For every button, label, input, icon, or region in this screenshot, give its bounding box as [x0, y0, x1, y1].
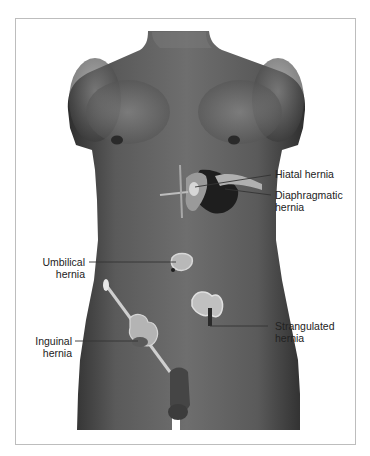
label-inguinal-hernia: Inguinal hernia — [10, 335, 72, 359]
label-umbilical-hernia: Umbilical hernia — [20, 256, 85, 280]
genital-region — [168, 368, 190, 421]
label-strangulated-hernia: Strangulated hernia — [275, 320, 335, 344]
label-hiatal-hernia: Hiatal hernia — [275, 168, 334, 180]
torso-illustration — [0, 0, 370, 456]
left-nipple — [111, 136, 123, 145]
label-diaphragmatic-hernia: Diaphragmatic hernia — [275, 189, 343, 213]
right-nipple — [228, 136, 240, 145]
